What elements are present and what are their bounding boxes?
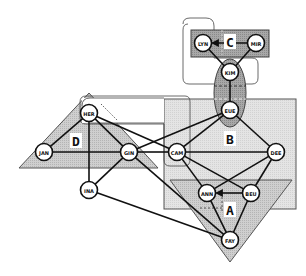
node-label: MIR [251,41,262,47]
group-label-c: C [224,34,236,50]
node-dee[interactable]: DEE [268,144,285,161]
node-label: FAY [225,238,235,244]
node-label: GIN [124,150,134,156]
node-label: CAM [171,150,184,156]
group-label-b: B [224,131,236,147]
node-lyn[interactable]: LYN [195,35,212,52]
node-label: HER [83,111,95,117]
node-gin[interactable]: GIN [121,144,138,161]
node-label: BEU [245,191,256,197]
node-kim[interactable]: KIM [222,64,239,81]
group-label-d-text: D [72,134,80,149]
node-label: DEE [271,150,283,156]
node-fay[interactable]: FAY [222,232,239,249]
node-label: LYN [198,41,208,47]
group-label-b-text: B [226,132,234,147]
group-label-d: D [70,133,82,149]
node-label: JAN [38,150,49,156]
group-label-a-text: A [226,203,234,218]
node-mir[interactable]: MIR [248,35,265,52]
node-label: INA [84,188,94,194]
node-cam[interactable]: CAM [169,144,186,161]
group-label-c-text: C [226,35,234,50]
node-label: ANN [201,191,213,197]
node-label: KIM [225,70,236,76]
node-ann[interactable]: ANN [199,185,216,202]
node-label: EUE [225,108,236,114]
node-ina[interactable]: INA [81,182,98,199]
network-diagram: LYNMIRKIMEUEHERJANGININACAMDEEANNBEUFAY … [0,0,306,276]
node-jan[interactable]: JAN [36,144,53,161]
node-her[interactable]: HER [81,105,98,122]
node-beu[interactable]: BEU [243,185,260,202]
group-label-a: A [224,202,236,218]
node-eue[interactable]: EUE [222,102,239,119]
